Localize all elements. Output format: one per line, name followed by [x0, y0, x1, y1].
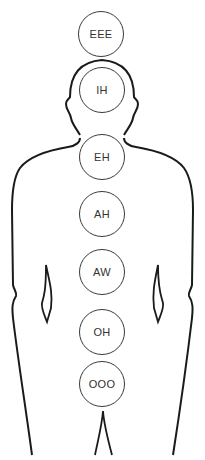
resonance-node-aw: AW	[79, 249, 125, 295]
leg-split	[95, 411, 112, 455]
node-label: EEE	[90, 28, 113, 40]
node-label: AH	[94, 208, 110, 220]
node-label: EH	[94, 151, 110, 163]
node-label: IH	[96, 84, 108, 96]
resonance-node-oh: OH	[79, 309, 125, 355]
node-label: AW	[93, 266, 111, 278]
resonance-node-eee: EEE	[78, 11, 124, 57]
resonance-node-eh: EH	[79, 134, 125, 180]
node-label: OOO	[89, 378, 116, 390]
left-arm-gap	[42, 265, 52, 322]
resonance-node-ah: AH	[79, 191, 125, 237]
right-arm-gap	[153, 265, 163, 322]
node-label: OH	[93, 326, 110, 338]
right-torso-outline	[124, 138, 193, 455]
resonance-node-ih: IH	[79, 67, 125, 113]
left-torso-outline	[12, 138, 80, 455]
resonance-node-ooo: OOO	[79, 361, 125, 407]
body-diagram: EEE IH EH AH AW OH OOO	[0, 0, 205, 460]
